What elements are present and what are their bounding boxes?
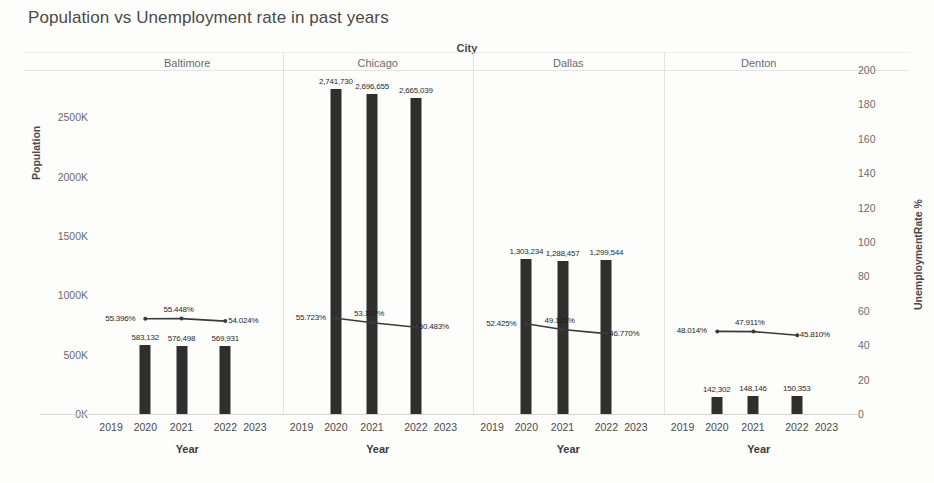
bar-value-label: 2,741,730 — [319, 77, 353, 86]
y-tick-label: 500K — [63, 349, 88, 361]
line-value-label: 46.770% — [609, 329, 639, 338]
line-value-label: 50.483% — [419, 322, 449, 331]
x-tick-label: 2020 — [324, 421, 347, 433]
panel-header-dallas: Dallas — [473, 57, 664, 69]
x-tick-label: 2021 — [551, 421, 574, 433]
bar-value-label: 569,931 — [212, 334, 240, 343]
bar[interactable] — [367, 94, 378, 414]
y2-tick-label: 140 — [858, 167, 876, 179]
y2-axis-ticks: 020406080100120140160180200 — [858, 0, 898, 483]
x-tick-label: 2023 — [243, 421, 266, 433]
x-tick-label: 2023 — [434, 421, 457, 433]
panel-header-denton: Denton — [664, 57, 855, 69]
line-value-label: 55.448% — [164, 305, 194, 314]
bar-value-label: 142,302 — [703, 385, 731, 394]
x-axis-title: Year — [92, 443, 283, 455]
bar[interactable] — [330, 89, 341, 414]
axis-baseline — [40, 414, 860, 415]
y2-tick-label: 200 — [858, 64, 876, 76]
bar[interactable] — [176, 346, 187, 414]
plot-area: 583,132576,498569,93155.396%55.448%54.02… — [92, 70, 854, 414]
panel-dallas: 1,303,2341,288,4571,299,54452.425%49.125… — [473, 70, 664, 414]
panel-denton: 142,302148,146150,35348.014%47.911%45.81… — [664, 70, 855, 414]
bar[interactable] — [711, 397, 722, 414]
y-axis-title: Population — [30, 126, 42, 180]
x-tick-label: 2019 — [480, 421, 503, 433]
y-tick-label: 1000K — [58, 289, 88, 301]
x-tick-label: 2019 — [99, 421, 122, 433]
y2-tick-label: 20 — [858, 374, 870, 386]
x-tick-label: 2021 — [360, 421, 383, 433]
line-value-label: 55.396% — [105, 314, 135, 323]
chart-canvas: Population vs Unemployment rate in past … — [0, 0, 934, 483]
line-value-label: 53.102% — [354, 309, 384, 318]
y2-tick-label: 160 — [858, 133, 876, 145]
y2-axis-title: UnemploymentRate % — [912, 199, 924, 310]
y-axis-ticks: 0K500K1000K1500K2000K2500K — [44, 0, 88, 483]
panel-header-chicago: Chicago — [283, 57, 474, 69]
bar[interactable] — [521, 259, 532, 414]
y2-tick-label: 40 — [858, 339, 870, 351]
panel-header-baltimore: Baltimore — [92, 57, 283, 69]
bar[interactable] — [410, 98, 421, 414]
bar-value-label: 2,665,039 — [399, 86, 433, 95]
bar[interactable] — [140, 345, 151, 414]
bar-value-label: 1,303,234 — [509, 247, 543, 256]
panel-baltimore: 583,132576,498569,93155.396%55.448%54.02… — [92, 70, 283, 414]
bar[interactable] — [791, 396, 802, 414]
line-value-label: 54.024% — [228, 316, 258, 325]
x-axis-title: Year — [664, 443, 855, 455]
bar-value-label: 148,146 — [739, 384, 767, 393]
line-value-label: 55.723% — [296, 313, 326, 322]
bar-value-label: 150,353 — [783, 384, 811, 393]
y2-tick-label: 120 — [858, 202, 876, 214]
y2-tick-label: 100 — [858, 236, 876, 248]
x-tick-label: 2023 — [624, 421, 647, 433]
bar-value-label: 583,132 — [132, 333, 160, 342]
x-tick-label: 2022 — [785, 421, 808, 433]
x-tick-label: 2022 — [595, 421, 618, 433]
x-tick-label: 2023 — [815, 421, 838, 433]
bar-value-label: 1,288,457 — [546, 249, 580, 258]
y-tick-label: 2000K — [58, 171, 88, 183]
x-tick-label: 2022 — [214, 421, 237, 433]
y-tick-label: 1500K — [58, 230, 88, 242]
line-value-label: 47.911% — [735, 318, 765, 327]
y2-tick-label: 80 — [858, 270, 870, 282]
x-tick-label: 2022 — [404, 421, 427, 433]
y2-tick-label: 180 — [858, 98, 876, 110]
x-tick-label: 2020 — [705, 421, 728, 433]
x-tick-label: 2020 — [134, 421, 157, 433]
x-tick-label: 2021 — [170, 421, 193, 433]
bar[interactable] — [557, 261, 568, 414]
x-tick-label: 2019 — [671, 421, 694, 433]
y-tick-label: 2500K — [58, 111, 88, 123]
line-value-label: 48.014% — [677, 326, 707, 335]
line-value-label: 49.125% — [545, 316, 575, 325]
bar[interactable] — [748, 396, 759, 414]
bar-value-label: 1,299,544 — [589, 248, 623, 257]
bar[interactable] — [220, 346, 231, 414]
panel-field-label: City — [0, 42, 934, 54]
line-value-label: 52.425% — [486, 319, 516, 328]
x-axis-title: Year — [473, 443, 664, 455]
panel-chicago: 2,741,7302,696,6552,665,03955.723%53.102… — [283, 70, 474, 414]
y2-tick-label: 60 — [858, 305, 870, 317]
x-tick-label: 2019 — [290, 421, 313, 433]
x-tick-label: 2020 — [515, 421, 538, 433]
bar-value-label: 576,498 — [168, 334, 196, 343]
line-value-label: 45.810% — [800, 330, 830, 339]
x-tick-label: 2021 — [741, 421, 764, 433]
bar-value-label: 2,696,655 — [355, 82, 389, 91]
x-axis-title: Year — [283, 443, 474, 455]
